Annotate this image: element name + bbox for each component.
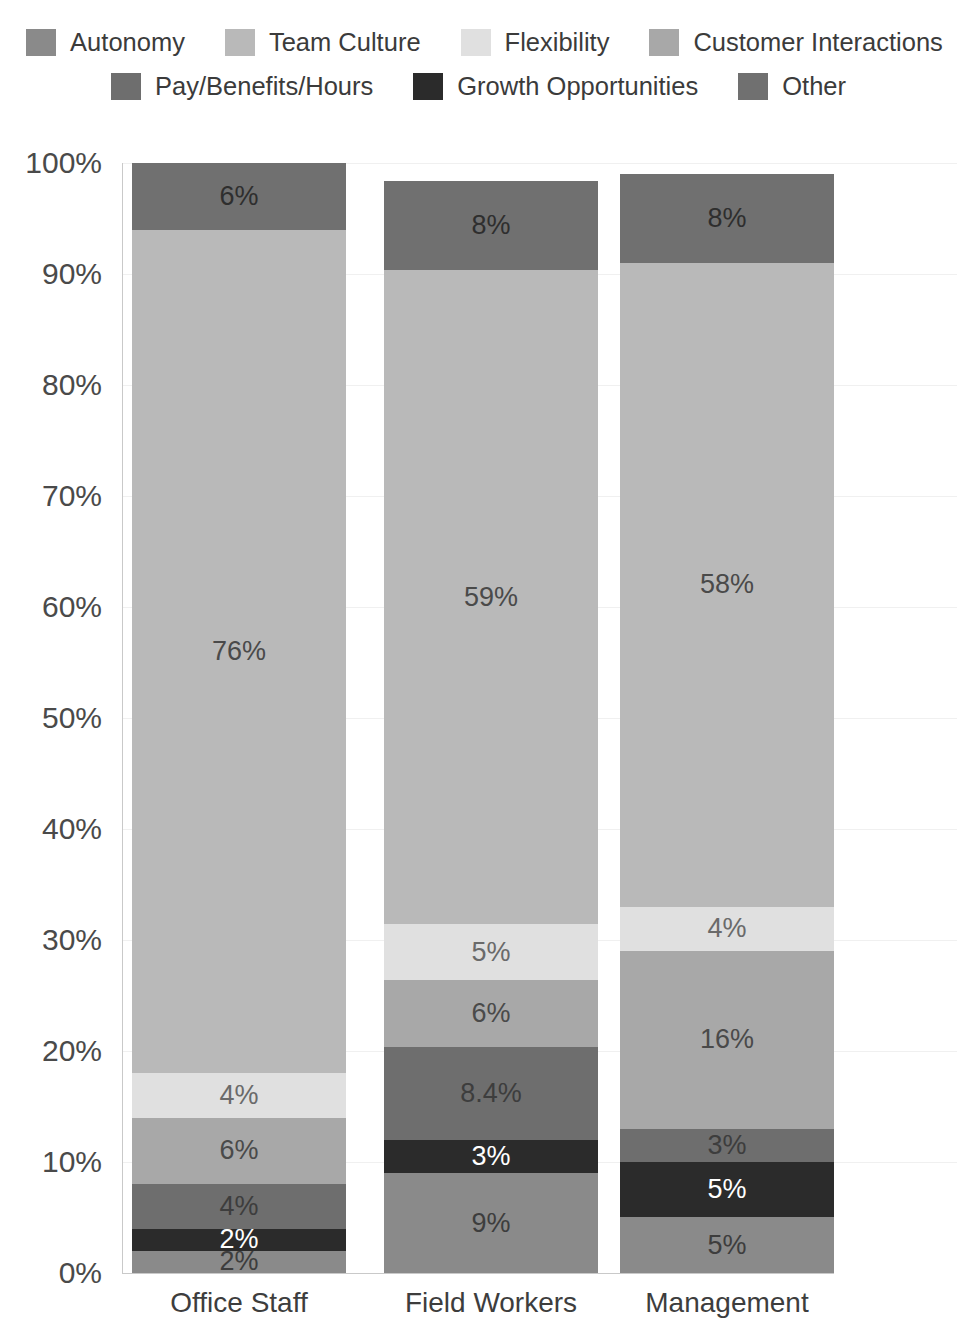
y-axis-tick-70: 70% xyxy=(0,479,112,513)
y-axis-tick-40: 40% xyxy=(0,812,112,846)
bar-segment-value-label: 58% xyxy=(700,571,754,598)
y-axis-tick-20: 20% xyxy=(0,1034,112,1068)
y-axis-tick-90: 90% xyxy=(0,257,112,291)
chart-plot-area: 0%10%20%30%40%50%60%70%80%90%100% 6%76%4… xyxy=(0,0,957,1339)
bar-segment-other[interactable]: 8% xyxy=(620,174,834,263)
y-axis-tick-10: 10% xyxy=(0,1145,112,1179)
bar-segment-value-label: 4% xyxy=(707,915,746,942)
bar-segment-value-label: 2% xyxy=(219,1226,258,1253)
bar-segment-value-label: 6% xyxy=(471,1000,510,1027)
bar-segment-growth-opportunities[interactable]: 3% xyxy=(384,1140,598,1173)
bar-segment-value-label: 16% xyxy=(700,1026,754,1053)
bar-segment-value-label: 5% xyxy=(707,1232,746,1259)
y-axis-tick-0: 0% xyxy=(0,1256,112,1290)
bar-segment-value-label: 9% xyxy=(471,1210,510,1237)
bar-segment-autonomy[interactable]: 2% xyxy=(132,1251,346,1273)
stacked-bar: 8%58%4%16%3%5%5% xyxy=(620,174,834,1273)
bar-segment-other[interactable]: 8% xyxy=(384,181,598,270)
x-axis-line xyxy=(122,1273,834,1274)
x-axis-category-label: Field Workers xyxy=(361,1287,621,1319)
bar-segment-pay-benefits-hours[interactable]: 4% xyxy=(132,1184,346,1228)
bar-segment-customer-interactions[interactable]: 16% xyxy=(620,951,834,1129)
bar-segment-autonomy[interactable]: 5% xyxy=(620,1217,834,1273)
x-axis-category-label: Management xyxy=(597,1287,857,1319)
x-axis-category-label: Office Staff xyxy=(109,1287,369,1319)
bar-segment-value-label: 8% xyxy=(471,212,510,239)
bar-segment-customer-interactions[interactable]: 6% xyxy=(132,1118,346,1185)
bar-segment-value-label: 8.4% xyxy=(460,1080,522,1107)
bar-segment-autonomy[interactable]: 9% xyxy=(384,1173,598,1273)
y-axis-tick-30: 30% xyxy=(0,923,112,957)
bar-segment-value-label: 4% xyxy=(219,1082,258,1109)
bar-segment-customer-interactions[interactable]: 6% xyxy=(384,980,598,1047)
y-axis-tick-50: 50% xyxy=(0,701,112,735)
bar-segment-value-label: 59% xyxy=(464,584,518,611)
bar-segment-flexibility[interactable]: 4% xyxy=(132,1073,346,1117)
bar-segment-growth-opportunities[interactable]: 2% xyxy=(132,1229,346,1251)
bar-segment-flexibility[interactable]: 4% xyxy=(620,907,834,951)
bar-segment-team-culture[interactable]: 76% xyxy=(132,230,346,1074)
bar-segment-growth-opportunities[interactable]: 5% xyxy=(620,1162,834,1218)
bar-segment-value-label: 3% xyxy=(471,1143,510,1170)
bar-segment-value-label: 6% xyxy=(219,1137,258,1164)
bar-group-management: 8%58%4%16%3%5%5% xyxy=(620,163,834,1273)
bar-group-field-workers: 8%59%5%6%8.4%3%9% xyxy=(384,163,598,1273)
y-axis: 0%10%20%30%40%50%60%70%80%90%100% xyxy=(0,0,112,1339)
bar-segment-other[interactable]: 6% xyxy=(132,163,346,230)
y-axis-tick-100: 100% xyxy=(0,146,112,180)
bar-segment-flexibility[interactable]: 5% xyxy=(384,924,598,980)
bar-segment-value-label: 76% xyxy=(212,638,266,665)
bar-segment-value-label: 5% xyxy=(707,1176,746,1203)
y-axis-tick-80: 80% xyxy=(0,368,112,402)
bar-segment-value-label: 3% xyxy=(707,1132,746,1159)
bar-segment-team-culture[interactable]: 59% xyxy=(384,270,598,925)
stacked-bar: 6%76%4%6%4%2%2% xyxy=(132,163,346,1273)
y-axis-tick-60: 60% xyxy=(0,590,112,624)
bar-segment-value-label: 5% xyxy=(471,939,510,966)
bar-segment-value-label: 6% xyxy=(219,183,258,210)
y-axis-line xyxy=(122,163,123,1274)
bar-segment-team-culture[interactable]: 58% xyxy=(620,263,834,907)
stacked-bar: 8%59%5%6%8.4%3%9% xyxy=(384,181,598,1273)
bar-group-office-staff: 6%76%4%6%4%2%2% xyxy=(132,163,346,1273)
bar-segment-value-label: 4% xyxy=(219,1193,258,1220)
bar-segment-value-label: 2% xyxy=(219,1248,258,1275)
bar-segment-pay-benefits-hours[interactable]: 8.4% xyxy=(384,1047,598,1140)
bar-segment-value-label: 8% xyxy=(707,205,746,232)
bar-segment-pay-benefits-hours[interactable]: 3% xyxy=(620,1129,834,1162)
